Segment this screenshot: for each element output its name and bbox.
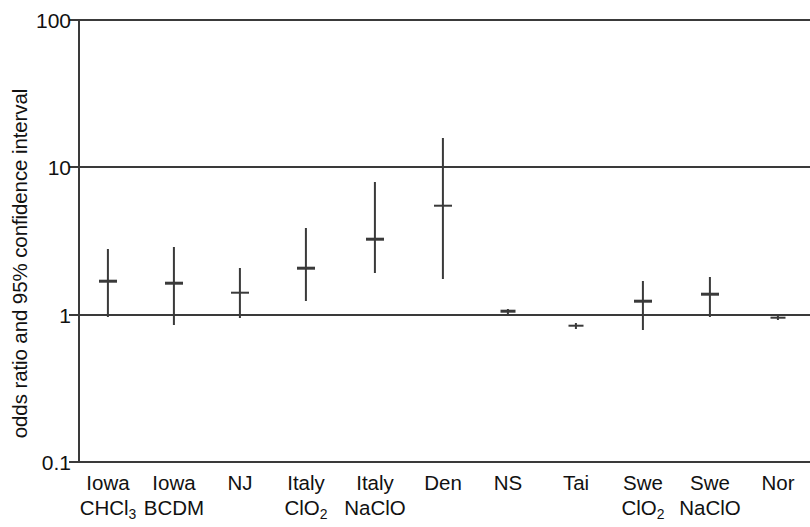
- x-label-line1: Iowa: [86, 471, 129, 494]
- x-axis-labels-group: IowaCHCl3IowaBCDMNJItalyClO2ItalyNaClODe…: [0, 470, 810, 527]
- odds-ratio-marker: [297, 267, 315, 270]
- x-axis-label-iowa-chcl3: IowaCHCl3: [80, 470, 137, 524]
- odds-ratio-marker: [366, 238, 384, 241]
- confidence-interval-bar: [173, 247, 175, 325]
- x-axis-label-italy-naclo: ItalyNaClO: [344, 470, 406, 521]
- x-label-line1: Tai: [563, 471, 589, 494]
- x-label-line1: Swe: [690, 471, 730, 494]
- x-label-line1: NS: [494, 471, 522, 494]
- confidence-interval-bar: [442, 138, 444, 279]
- x-label-line1: NJ: [227, 471, 252, 494]
- confidence-interval-bar: [107, 249, 109, 316]
- confidence-interval-bar: [305, 228, 307, 302]
- confidence-interval-bar: [642, 281, 644, 330]
- odds-ratio-marker: [501, 310, 516, 313]
- x-label-line2: NaClO: [679, 495, 741, 520]
- gridline-1: [78, 314, 810, 316]
- x-label-line1: Den: [424, 471, 462, 494]
- x-label-line1: Italy: [287, 471, 325, 494]
- y-tick-label: 1: [59, 304, 71, 325]
- x-axis-label-iowa-bcdm: IowaBCDM: [144, 470, 204, 521]
- x-axis-label-swe-naclo: SweNaClO: [679, 470, 741, 521]
- x-label-line2: NaClO: [344, 495, 406, 520]
- odds-ratio-marker: [434, 204, 452, 207]
- x-label-line2: CHCl3: [80, 495, 137, 523]
- odds-ratio-marker: [99, 280, 117, 283]
- gridline-0.1: [78, 461, 810, 463]
- x-label-subscript: 2: [657, 506, 665, 522]
- x-label-line2: BCDM: [144, 495, 204, 520]
- x-axis-label-den: Den: [424, 470, 462, 495]
- x-label-line2: ClO2: [621, 495, 664, 523]
- odds-ratio-marker: [231, 291, 249, 294]
- x-label-line1: Nor: [761, 471, 794, 494]
- y-tick-label: 10: [48, 157, 71, 178]
- x-axis-label-italy-clo2: ItalyClO2: [284, 470, 327, 524]
- odds-ratio-marker: [165, 282, 183, 285]
- chart-screenshot: odds ratio and 95% confidence interval 1…: [0, 0, 810, 527]
- x-label-line2: ClO2: [284, 495, 327, 523]
- confidence-interval-bar: [374, 182, 376, 273]
- gridline-100: [78, 19, 810, 21]
- x-label-line1: Italy: [356, 471, 394, 494]
- confidence-interval-bar: [709, 277, 711, 317]
- odds-ratio-marker: [569, 324, 584, 327]
- x-label-line1: Swe: [623, 471, 663, 494]
- x-axis-label-nor: Nor: [761, 470, 794, 495]
- x-axis-label-swe-clo2: SweClO2: [621, 470, 664, 524]
- x-label-subscript: 2: [320, 506, 328, 522]
- odds-ratio-marker: [771, 317, 786, 320]
- odds-ratio-marker: [634, 300, 652, 303]
- x-axis-label-ns: NS: [494, 470, 522, 495]
- odds-ratio-marker: [701, 293, 719, 296]
- x-axis-label-tai: Tai: [563, 470, 589, 495]
- x-axis-label-nj: NJ: [227, 470, 252, 495]
- x-label-line1: Iowa: [152, 471, 195, 494]
- plot-area: 1001010.1: [78, 20, 810, 462]
- y-axis-title: odds ratio and 95% confidence interval: [0, 0, 40, 527]
- y-tick-label: 100: [36, 10, 71, 31]
- x-label-subscript: 3: [129, 506, 137, 522]
- y-axis-line: [78, 20, 80, 462]
